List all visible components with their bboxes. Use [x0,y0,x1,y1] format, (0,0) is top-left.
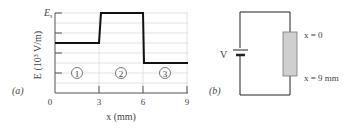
panel-b-label: (b) [209,85,221,97]
y-top-label: Es [43,7,53,19]
resistor [283,32,297,76]
x-tick-6: 6 [141,97,146,107]
region-1-label: 1 [75,69,80,79]
x-axis-label: x (mm) [106,111,136,123]
figure: 1 2 3 Es E (10³ V/m) 0 3 6 9 x (mm) (a) [0,0,352,128]
y-axis-label: E (10³ V/m) [32,31,44,79]
x-tick-0: 0 [48,97,53,107]
x-tick-9: 9 [185,97,190,107]
graph-panel-a: 1 2 3 Es E (10³ V/m) 0 3 6 9 x (mm) (a) [12,7,190,123]
x-tick-3: 3 [97,97,102,107]
circuit-panel-b: V x = 0 x = 9 mm (b) [209,12,339,97]
circuit-wires [240,12,290,95]
resistor-top-label: x = 0 [304,30,323,40]
battery-icon [233,50,248,55]
e-field-curve [55,13,188,63]
region-2-label: 2 [119,69,124,79]
resistor-bottom-label: x = 9 mm [304,73,339,83]
grid-lines [55,13,188,93]
battery-label: V [220,49,228,60]
region-3-label: 3 [163,69,168,79]
panel-a-label: (a) [12,85,24,97]
